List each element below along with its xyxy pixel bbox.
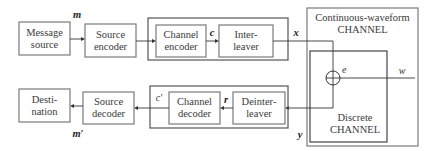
- channel-decoder-label-1: Channel: [177, 96, 212, 107]
- signal-c-prime-label: c′: [156, 92, 163, 103]
- signal-c-label: c: [210, 27, 215, 38]
- channel-encoder-label-2: encoder: [164, 41, 198, 52]
- arrow-to-channel-encoder: [152, 39, 156, 43]
- source-decoder-label-1: Source: [94, 96, 123, 107]
- source-encoder-label-1: Source: [96, 29, 125, 40]
- signal-y-label: y: [296, 129, 303, 140]
- communication-system-diagram: Continuous-waveform CHANNEL Discrete CHA…: [0, 0, 435, 151]
- signal-r-label: r: [224, 94, 229, 105]
- continuous-channel-label-1: Continuous-waveform: [315, 12, 410, 23]
- signal-m-label: m: [73, 9, 81, 20]
- arrow-c-prime: [134, 106, 138, 110]
- interleaver-label-1: Inter-: [234, 29, 258, 40]
- continuous-channel-label-2: CHANNEL: [337, 24, 387, 35]
- signal-m-prime-label: m′: [72, 128, 83, 139]
- channel-encoder-label-1: Channel: [164, 29, 199, 40]
- message-source-label-1: Message: [26, 27, 63, 38]
- message-source-label-2: source: [31, 39, 59, 50]
- interleaver-label-2: leaver: [233, 41, 259, 52]
- destination-label-1: Desti-: [32, 94, 58, 105]
- destination-label-2: nation: [31, 106, 58, 117]
- source-decoder-label-2: decoder: [92, 108, 126, 119]
- discrete-channel-label-1: Discrete: [338, 112, 373, 123]
- deinterleaver-label-2: leaver: [246, 108, 272, 119]
- signal-w-label: w: [399, 65, 406, 76]
- channel-decoder-label-2: decoder: [178, 108, 212, 119]
- deinterleaver-label-1: Deinter-: [242, 96, 277, 107]
- signal-e-label: e: [342, 64, 347, 75]
- signal-x-label: x: [292, 27, 298, 38]
- discrete-channel-label-2: CHANNEL: [330, 124, 380, 135]
- arrow-c: [215, 39, 219, 43]
- arrow-r: [220, 106, 224, 110]
- source-encoder-label-2: encoder: [94, 41, 128, 52]
